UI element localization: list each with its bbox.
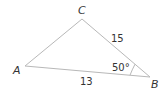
angle-label-b: 50° bbox=[112, 62, 130, 73]
side-label-ab: 13 bbox=[80, 76, 93, 87]
triangle-sides bbox=[25, 19, 150, 77]
side-ca bbox=[25, 19, 82, 66]
vertex-label-c: C bbox=[78, 4, 86, 17]
triangle-diagram: C A B 15 13 50° bbox=[0, 0, 166, 91]
side-label-bc: 15 bbox=[111, 33, 124, 44]
vertex-label-b: B bbox=[151, 78, 159, 91]
angle-b-arc bbox=[130, 64, 135, 75]
vertex-label-a: A bbox=[12, 64, 21, 77]
